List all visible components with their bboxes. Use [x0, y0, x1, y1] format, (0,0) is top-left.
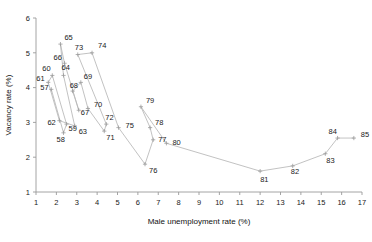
data-point-label: 77 — [158, 135, 166, 144]
data-point-label: 60 — [42, 64, 50, 73]
data-point-label: 76 — [149, 166, 157, 175]
data-point-label: 58 — [57, 135, 65, 144]
y-axis-title: Vacancy rate (%) — [4, 74, 13, 135]
data-point-label: 69 — [84, 72, 92, 81]
data-point-label: 83 — [326, 156, 334, 165]
x-tick-label: 10 — [215, 198, 223, 207]
data-point-label: 81 — [260, 175, 268, 184]
x-axis: 1234567891011121314151617 — [34, 192, 366, 207]
x-tick-label: 2 — [54, 198, 58, 207]
data-marker — [58, 42, 62, 46]
data-point-label: 82 — [291, 167, 299, 176]
data-point-label: 84 — [329, 127, 337, 136]
y-tick-label: 3 — [26, 118, 30, 127]
data-point-label: 79 — [146, 96, 154, 105]
x-tick-label: 5 — [115, 198, 119, 207]
x-tick-label: 13 — [276, 198, 284, 207]
data-point-label: 72 — [105, 113, 113, 122]
data-point-label: 65 — [64, 33, 72, 42]
y-tick-label: 1 — [26, 188, 30, 197]
data-point-label: 78 — [155, 118, 163, 127]
data-point-label: 80 — [172, 138, 180, 147]
data-marker — [352, 136, 356, 140]
x-axis-ticks: 1234567891011121314151617 — [34, 192, 366, 207]
y-tick-label: 2 — [26, 153, 30, 162]
beveridge-curve-chart: 123456 1234567891011121314151617 5758596… — [0, 0, 372, 242]
data-point-label: 57 — [40, 83, 48, 92]
y-axis: 123456 — [26, 14, 36, 197]
x-tick-label: 6 — [136, 198, 140, 207]
x-tick-label: 9 — [197, 198, 201, 207]
data-marker — [104, 122, 108, 126]
data-marker — [50, 73, 54, 77]
x-tick-label: 7 — [156, 198, 160, 207]
x-tick-label: 17 — [358, 198, 366, 207]
data-point-label: 70 — [94, 100, 102, 109]
data-point-label: 73 — [75, 43, 83, 52]
y-tick-label: 5 — [26, 49, 30, 58]
chart-canvas: 123456 1234567891011121314151617 5758596… — [0, 0, 372, 242]
data-point-label: 71 — [106, 133, 114, 142]
x-tick-label: 1 — [34, 198, 38, 207]
data-marker — [61, 73, 65, 77]
x-tick-label: 16 — [337, 198, 345, 207]
data-point-label: 61 — [36, 74, 44, 83]
data-point-label: 68 — [70, 81, 78, 90]
x-tick-label: 11 — [236, 198, 244, 207]
x-axis-title: Male unemployment rate (%) — [148, 217, 251, 226]
data-marker — [258, 169, 262, 173]
data-series: 5758596061626364656667686970717273747576… — [36, 33, 369, 184]
data-point-label: 67 — [81, 108, 89, 117]
y-axis-ticks: 123456 — [26, 14, 36, 197]
data-point-label: 63 — [79, 127, 87, 136]
y-tick-label: 4 — [26, 83, 30, 92]
data-point-label: 59 — [69, 124, 77, 133]
data-point-label: 66 — [54, 53, 62, 62]
data-marker — [151, 138, 155, 142]
data-point-labels: 5758596061626364656667686970717273747576… — [36, 33, 369, 184]
data-point-label: 75 — [126, 121, 134, 130]
data-marker — [148, 126, 152, 130]
data-point-label: 62 — [47, 118, 55, 127]
data-marker — [76, 52, 80, 56]
data-point-label: 74 — [98, 41, 106, 50]
x-tick-label: 8 — [177, 198, 181, 207]
x-tick-label: 14 — [297, 198, 305, 207]
data-point-label: 64 — [62, 63, 70, 72]
x-tick-label: 15 — [317, 198, 325, 207]
data-marker — [90, 51, 94, 55]
data-point-label: 85 — [361, 130, 369, 139]
x-tick-label: 3 — [75, 198, 79, 207]
x-tick-label: 12 — [256, 198, 264, 207]
y-tick-label: 6 — [26, 14, 30, 23]
x-tick-label: 4 — [95, 198, 99, 207]
